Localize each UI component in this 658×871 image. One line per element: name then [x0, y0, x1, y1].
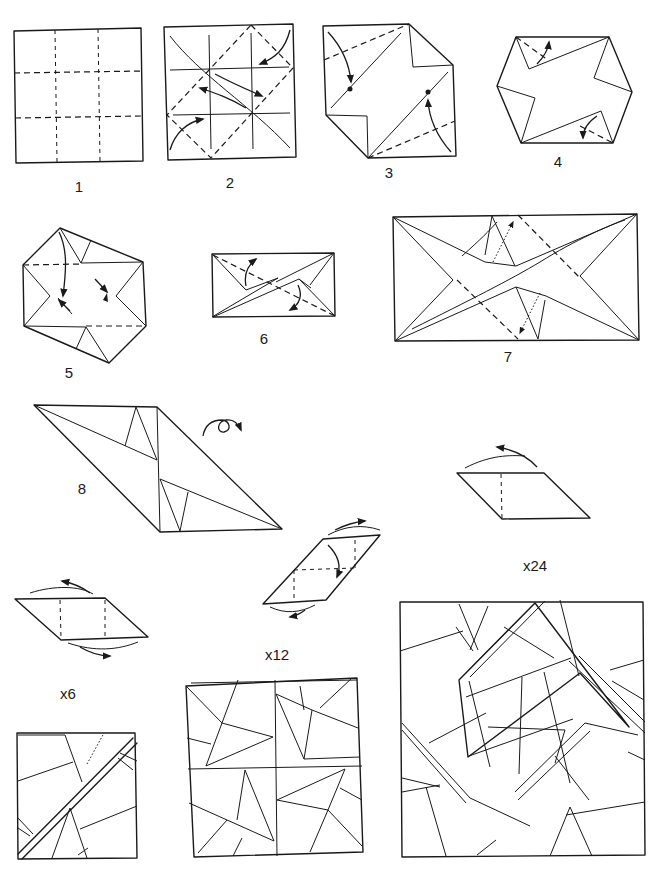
step-label-1: 1 — [75, 178, 83, 195]
step-label-6: 6 — [260, 330, 268, 347]
unit-count-x12: x12 — [265, 646, 289, 663]
unit-x24-figure — [457, 447, 590, 519]
step-label-7: 7 — [504, 348, 512, 365]
unit-count-x24: x24 — [523, 557, 547, 574]
step-8-figure — [34, 405, 282, 532]
model-large-figure — [400, 600, 645, 857]
unit-count-x6: x6 — [60, 685, 76, 702]
step-3-figure — [323, 24, 456, 158]
step-label-8: 8 — [78, 480, 86, 497]
origami-diagram-canvas — [0, 0, 658, 871]
model-medium-figure — [186, 678, 363, 857]
step-label-5: 5 — [65, 364, 73, 381]
step-label-2: 2 — [226, 174, 234, 191]
step-6-figure — [212, 253, 335, 317]
step-2-figure — [164, 24, 296, 160]
step-label-3: 3 — [385, 164, 393, 181]
step-5-figure — [23, 228, 146, 363]
step-7-figure — [393, 214, 639, 341]
unit-x6-figure — [15, 581, 148, 656]
model-small-figure — [17, 733, 137, 859]
step-label-4: 4 — [554, 153, 562, 170]
turn-over-icon — [203, 420, 241, 436]
step-1-figure — [14, 28, 143, 163]
step-4-figure — [497, 37, 632, 143]
unit-x12-figure — [263, 521, 380, 617]
